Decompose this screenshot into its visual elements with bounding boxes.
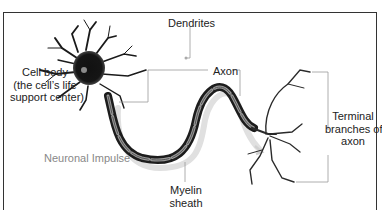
label-myelin-sheath: Myelin sheath — [166, 184, 206, 209]
label-myelin-line2: sheath — [166, 197, 206, 210]
label-cell-body-line3: support center) — [10, 91, 80, 104]
label-axon: Axon — [213, 65, 238, 78]
label-terminal-branches: Terminal branches of axon — [325, 110, 381, 148]
label-neuronal-impulse: Neuronal Impulse — [44, 152, 130, 165]
neuron-illustration — [0, 0, 382, 210]
label-terminal-line2: branches of — [325, 123, 381, 136]
label-cell-body-line1: Cell body — [10, 66, 80, 79]
label-cell-body: Cell body (the cell’s life support cente… — [10, 66, 80, 104]
label-myelin-line1: Myelin — [166, 184, 206, 197]
label-dendrites: Dendrites — [168, 17, 215, 30]
label-cell-body-line2: (the cell’s life — [10, 79, 80, 92]
label-terminal-line3: axon — [325, 135, 381, 148]
nucleus — [81, 67, 87, 73]
label-terminal-line1: Terminal — [325, 110, 381, 123]
